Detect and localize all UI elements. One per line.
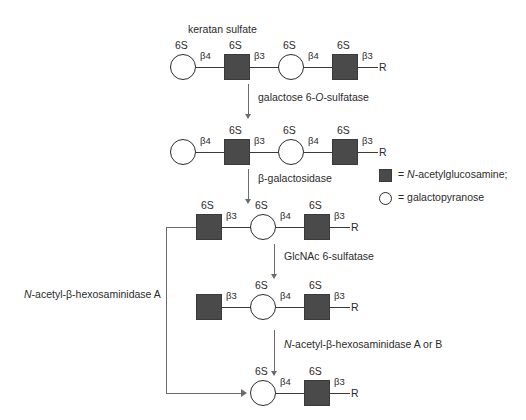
enzyme-text-post: -sulfatase bbox=[323, 91, 369, 103]
glcnac-symbol bbox=[196, 294, 222, 320]
terminal-label: R bbox=[379, 147, 387, 158]
enzyme-text-italic: N bbox=[24, 288, 32, 300]
arrow-shaft bbox=[274, 244, 275, 275]
galactopyranose-symbol bbox=[170, 54, 196, 80]
linkage-label: β3 bbox=[334, 291, 345, 301]
sulfate-label: 6S bbox=[309, 366, 322, 377]
galactopyranose-symbol bbox=[278, 139, 304, 165]
linkage-label: β3 bbox=[226, 211, 237, 221]
sulfate-label: 6S bbox=[283, 40, 296, 51]
bond bbox=[304, 67, 332, 68]
glcnac-symbol bbox=[304, 380, 330, 406]
enzyme-label-glcnac-6-sulfatase: GlcNAc 6-sulfatase bbox=[284, 250, 374, 262]
bond bbox=[250, 67, 278, 68]
linkage-label: β4 bbox=[308, 136, 319, 146]
enzyme-text-pre: galactose 6- bbox=[258, 91, 315, 103]
glcnac-symbol bbox=[196, 214, 222, 240]
bond bbox=[304, 152, 332, 153]
bond bbox=[196, 152, 224, 153]
galactopyranose-symbol bbox=[250, 214, 276, 240]
bond bbox=[250, 152, 278, 153]
sulfate-label: 6S bbox=[175, 40, 188, 51]
page-title: keratan sulfate bbox=[188, 23, 257, 35]
linkage-label: β4 bbox=[280, 211, 291, 221]
glcnac-symbol bbox=[332, 54, 358, 80]
galactopyranose-legend-symbol bbox=[379, 192, 392, 205]
legend-galactopyranose-text: = galactopyranose bbox=[398, 191, 484, 203]
linkage-label: β3 bbox=[254, 136, 265, 146]
galactopyranose-symbol bbox=[170, 139, 196, 165]
linkage-label: β4 bbox=[200, 51, 211, 61]
arrow-head bbox=[271, 371, 277, 376]
recycle-arrow-top-segment bbox=[166, 227, 196, 228]
terminal-label: R bbox=[379, 62, 387, 73]
linkage-label: β4 bbox=[200, 136, 211, 146]
arrow-shaft bbox=[248, 169, 249, 200]
arrow-shaft bbox=[248, 84, 249, 115]
bond bbox=[222, 227, 250, 228]
galactopyranose-symbol bbox=[250, 294, 276, 320]
enzyme-text-post: -acetyl-β-hexosaminidase A or B bbox=[292, 338, 443, 350]
sulfate-label: 6S bbox=[309, 280, 322, 291]
arrow-head bbox=[245, 199, 251, 204]
linkage-label: β4 bbox=[308, 51, 319, 61]
terminal-label: R bbox=[351, 388, 359, 399]
bond bbox=[276, 227, 304, 228]
legend-galactopyranose-name: galactopyranose bbox=[407, 191, 484, 203]
linkage-label: β3 bbox=[362, 136, 373, 146]
linkage-label: β3 bbox=[226, 291, 237, 301]
legend-glcnac-text: = N-acetylglucosamine; bbox=[398, 168, 507, 180]
sulfate-label: 6S bbox=[255, 366, 268, 377]
linkage-label: β4 bbox=[280, 291, 291, 301]
glcnac-symbol bbox=[224, 139, 250, 165]
galactopyranose-symbol bbox=[250, 380, 276, 406]
sulfate-label: 6S bbox=[309, 200, 322, 211]
legend-italic-n: N bbox=[407, 168, 415, 180]
sulfate-label: 6S bbox=[337, 40, 350, 51]
sulfate-label: 6S bbox=[229, 125, 242, 136]
diagram-canvas: keratan sulfate 6S 6S 6S 6S β4 β3 β4 β3 … bbox=[0, 0, 526, 420]
arrow-head bbox=[271, 274, 277, 279]
glcnac-symbol bbox=[224, 54, 250, 80]
arrow-head bbox=[245, 114, 251, 119]
bond-terminal bbox=[330, 227, 350, 228]
recycle-arrow-vertical-segment bbox=[166, 227, 167, 393]
glcnac-legend-symbol bbox=[379, 169, 392, 182]
enzyme-text-post: -acetyl-β-hexosaminidase A bbox=[32, 288, 161, 300]
legend-glcnac-name: -acetylglucosamine; bbox=[415, 168, 508, 180]
bond-terminal bbox=[358, 67, 378, 68]
sulfate-label: 6S bbox=[201, 200, 214, 211]
linkage-label: β3 bbox=[254, 51, 265, 61]
legend-equals: = bbox=[398, 191, 407, 203]
arrow-shaft bbox=[274, 330, 275, 372]
bond bbox=[276, 307, 304, 308]
glcnac-symbol bbox=[304, 214, 330, 240]
bond bbox=[196, 67, 224, 68]
sulfate-label: 6S bbox=[337, 125, 350, 136]
bond bbox=[276, 393, 304, 394]
sulfate-label: 6S bbox=[255, 280, 268, 291]
linkage-label: β3 bbox=[334, 211, 345, 221]
sulfate-label: 6S bbox=[229, 40, 242, 51]
sulfate-label: 6S bbox=[283, 125, 296, 136]
linkage-label: β3 bbox=[334, 377, 345, 387]
bond-terminal bbox=[358, 152, 378, 153]
recycle-arrow-head bbox=[241, 389, 247, 397]
terminal-label: R bbox=[351, 302, 359, 313]
bond-terminal bbox=[330, 307, 350, 308]
galactopyranose-symbol bbox=[278, 54, 304, 80]
glcnac-symbol bbox=[304, 294, 330, 320]
enzyme-label-beta-galactosidase: β-galactosidase bbox=[258, 172, 332, 184]
linkage-label: β3 bbox=[362, 51, 373, 61]
recycle-arrow-bottom-segment bbox=[166, 393, 242, 394]
sulfate-label: 6S bbox=[255, 200, 268, 211]
enzyme-text-italic: N bbox=[284, 338, 292, 350]
bond-terminal bbox=[330, 393, 350, 394]
terminal-label: R bbox=[351, 222, 359, 233]
linkage-label: β4 bbox=[280, 377, 291, 387]
bond bbox=[222, 307, 250, 308]
enzyme-label-hexosaminidase-a: N-acetyl-β-hexosaminidase A bbox=[24, 288, 161, 300]
legend-equals: = bbox=[398, 168, 407, 180]
glcnac-symbol bbox=[332, 139, 358, 165]
enzyme-label-hexosaminidase-a-or-b: N-acetyl-β-hexosaminidase A or B bbox=[284, 338, 442, 350]
